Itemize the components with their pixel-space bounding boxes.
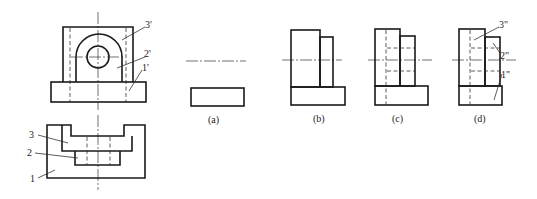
label-1prime: 1' [142, 62, 149, 73]
d-arch-part [485, 37, 500, 86]
label-3prime: 3' [145, 19, 152, 30]
side-view-a: (a) [186, 61, 246, 126]
leader-3 [38, 135, 68, 143]
b-base-plate [291, 87, 345, 105]
d-upright [459, 29, 485, 86]
c-arch-part [400, 36, 415, 86]
top-part2 [75, 151, 120, 165]
b-upright [291, 30, 320, 87]
label-3dprime: 3" [499, 19, 508, 30]
top-part3 [62, 125, 132, 151]
a-base-plate [191, 88, 244, 106]
c-upright [375, 29, 400, 86]
side-view-c: (c) [368, 29, 432, 125]
front-arch [76, 34, 122, 82]
caption-a: (a) [208, 114, 219, 126]
three-view-drawing: 3' 2' 1' 3 2 1 (a) (b) [0, 0, 537, 199]
label-2dprime: 2" [500, 50, 509, 61]
label-2: 2 [27, 147, 32, 158]
caption-d: (d) [474, 113, 486, 125]
c-base-plate [375, 86, 428, 105]
side-view-d: 3" 2" 1" (d) [452, 19, 516, 125]
top-view: 3 2 1 [27, 115, 145, 190]
leader-1prime [129, 70, 142, 91]
front-view: 3' 2' 1' [51, 12, 152, 110]
label-1: 1 [30, 173, 35, 184]
front-base-plate [51, 82, 146, 102]
caption-c: (c) [392, 113, 403, 125]
label-2prime: 2' [144, 48, 151, 59]
leader-2 [35, 153, 78, 158]
side-view-b: (b) [282, 30, 345, 125]
caption-b: (b) [313, 113, 325, 125]
b-arch-part [320, 37, 333, 87]
label-3: 3 [29, 129, 34, 140]
label-1dprime: 1" [501, 69, 510, 80]
